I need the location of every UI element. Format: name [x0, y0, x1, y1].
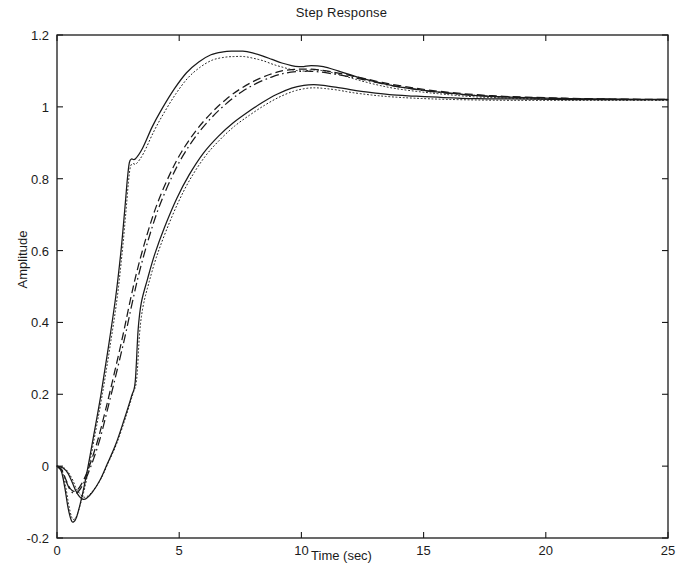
y-tick-label: -0.2	[1, 531, 49, 546]
x-tick-label: 25	[661, 543, 675, 558]
x-tick-label: 15	[416, 543, 430, 558]
y-tick-label: 0.6	[1, 243, 49, 258]
x-tick-label: 10	[294, 543, 308, 558]
y-tick-label: 1	[1, 99, 49, 114]
x-tick-label: 20	[539, 543, 553, 558]
plot-canvas	[0, 0, 683, 571]
x-tick-label: 0	[53, 543, 60, 558]
y-tick-label: 1.2	[1, 28, 49, 43]
y-tick-label: 0.8	[1, 171, 49, 186]
step-response-figure: Step Response Amplitude Time (sec) -0.20…	[0, 0, 683, 571]
y-tick-label: 0.2	[1, 387, 49, 402]
x-tick-label: 5	[176, 543, 183, 558]
y-tick-label: 0	[1, 459, 49, 474]
plot-frame	[57, 35, 668, 538]
y-tick-label: 0.4	[1, 315, 49, 330]
